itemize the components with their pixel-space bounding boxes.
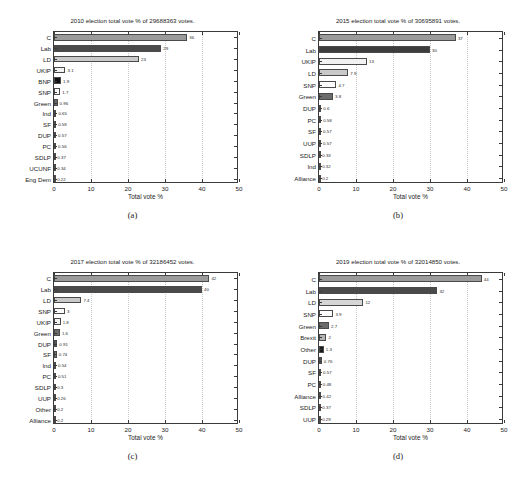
y-tick-mark [234, 113, 237, 114]
x-tick-label: 50 [501, 185, 508, 192]
x-tick-label: 40 [464, 185, 471, 192]
category-label: Ind [42, 110, 51, 117]
y-tick-mark [234, 146, 237, 147]
y-tick-mark [54, 354, 57, 355]
y-tick-mark [319, 396, 322, 397]
y-tick-mark [319, 314, 322, 315]
bar-row: 0.96Green [54, 99, 239, 106]
y-tick-mark [54, 289, 57, 290]
category-label: Lab [306, 287, 316, 294]
y-tick-mark [234, 179, 237, 180]
bar-row: 0.34UCUNF [54, 164, 239, 171]
bar [319, 34, 456, 41]
bar-row: 7.4LD [54, 297, 239, 304]
category-label: C [47, 34, 51, 41]
y-tick-mark [54, 376, 57, 377]
bar-row: 0.56PC [54, 143, 239, 150]
y-tick-mark [499, 407, 502, 408]
x-tick-mark [504, 420, 505, 423]
bar-value-label: 0.48 [321, 382, 332, 387]
y-tick-mark [234, 278, 237, 279]
bar-value-label: 2 [326, 335, 330, 340]
bar-value-label: 29 [161, 46, 168, 51]
bar-row: 0.22Eng Dem [54, 175, 239, 182]
x-tick-label: 30 [162, 185, 169, 192]
category-label: UUP [38, 394, 51, 401]
y-tick-mark [499, 178, 502, 179]
y-tick-mark [499, 108, 502, 109]
bar-value-label: 0.57 [56, 133, 67, 138]
x-tick-mark [504, 179, 505, 182]
y-tick-mark [234, 354, 237, 355]
bar-row: 0.48PC [319, 381, 504, 388]
bar-value-label: 37 [456, 35, 463, 40]
bar-value-label: 12 [363, 300, 370, 305]
bar-value-label: 30 [430, 47, 437, 52]
bar [319, 58, 367, 65]
bar-row: 0.32Ind [319, 163, 504, 170]
bar-row: 3.9SNP [319, 310, 504, 317]
bar-value-label: 3 [65, 308, 69, 313]
y-tick-mark [319, 279, 322, 280]
bar-row: 37C [319, 34, 504, 41]
bar-row: 3.8Green [319, 93, 504, 100]
x-tick-label: 10 [88, 426, 95, 433]
bar-row: 0.3SDLP [54, 384, 239, 391]
panel-letter: (d) [265, 451, 531, 461]
bar-value-label: 0.54 [56, 363, 67, 368]
y-tick-mark [234, 311, 237, 312]
category-label: DUP [303, 357, 316, 364]
bar-value-label: 3.1 [65, 67, 73, 72]
y-tick-mark [319, 61, 322, 62]
category-label: UKIP [37, 66, 51, 73]
bar-value-label: 7.9 [348, 70, 356, 75]
y-tick-mark [499, 349, 502, 350]
bar-value-label: 4.7 [336, 82, 344, 87]
x-tick-label: 0 [317, 185, 320, 192]
bar-value-label: 23 [139, 57, 146, 62]
bar-row: 12LD [319, 299, 504, 306]
bar-value-label: 2.7 [329, 323, 337, 328]
y-tick-mark [54, 59, 57, 60]
category-label: Other [36, 405, 51, 412]
category-label: SF [308, 128, 316, 135]
category-label: SDLP [35, 153, 51, 160]
y-tick-mark [234, 70, 237, 71]
bar-row: 0.91DUP [54, 340, 239, 347]
x-tick-mark [239, 179, 240, 182]
category-label: Lab [41, 286, 51, 293]
bar-value-label: 0.76 [322, 358, 333, 363]
chart-panel-a: 2010 election total vote % of 29688363 v… [0, 0, 265, 241]
category-label: Ind [307, 163, 316, 170]
y-tick-mark [54, 278, 57, 279]
bar-value-label: 3.8 [333, 94, 341, 99]
bar-row: 1.7SNP [54, 88, 239, 95]
y-tick-mark [54, 48, 57, 49]
y-tick-mark [319, 372, 322, 373]
bar [54, 34, 187, 41]
category-label: PC [42, 373, 51, 380]
x-tick-mark [504, 32, 505, 35]
bar-row: 7.9LD [319, 69, 504, 76]
chart-title: 2015 election total vote % of 30695891 v… [265, 17, 531, 24]
bar-value-label: 0.56 [56, 143, 67, 148]
y-tick-mark [54, 344, 57, 345]
x-axis-label: Total vote % [318, 193, 503, 200]
y-tick-mark [319, 302, 322, 303]
y-tick-mark [499, 279, 502, 280]
y-tick-mark [54, 365, 57, 366]
x-tick-label: 10 [353, 426, 360, 433]
bar-value-label: 0.57 [321, 141, 332, 146]
y-tick-mark [499, 314, 502, 315]
category-label: SDLP [35, 383, 51, 390]
y-tick-mark [54, 322, 57, 323]
bar-row: 23LD [54, 56, 239, 63]
bar [54, 297, 81, 304]
bar-value-label: 40 [202, 287, 209, 292]
category-label: SNP [38, 307, 51, 314]
x-tick-label: 10 [88, 185, 95, 192]
x-tick-label: 20 [125, 185, 132, 192]
category-label: Lab [306, 46, 316, 53]
y-tick-mark [499, 419, 502, 420]
category-label: PC [42, 142, 51, 149]
